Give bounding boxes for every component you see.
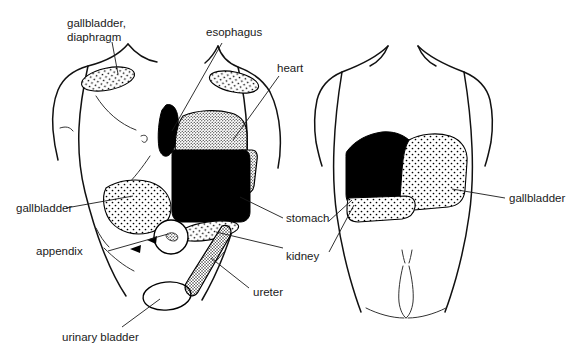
label-kidney: kidney	[286, 250, 319, 262]
label-ureter: ureter	[253, 286, 283, 298]
label-gallbladder-anterior: gallbladder	[16, 202, 72, 214]
label-stomach: stomach	[286, 212, 329, 224]
canvas-background	[0, 0, 570, 360]
label-gallbladder-diaphragm-line1: gallbladder,	[67, 17, 126, 29]
label-appendix: appendix	[36, 245, 83, 257]
stomach-region	[172, 150, 250, 222]
label-gallbladder-posterior: gallbladder	[509, 192, 565, 204]
label-heart: heart	[277, 62, 304, 74]
label-urinary-bladder: urinary bladder	[62, 331, 139, 343]
label-esophagus: esophagus	[206, 26, 263, 38]
label-gallbladder-diaphragm-line2: diaphragm	[67, 31, 121, 43]
stomach-region-posterior	[346, 132, 409, 206]
kidney-region-posterior	[347, 196, 415, 222]
referred-pain-diagram: gallbladder, diaphragm esophagus heart g…	[0, 0, 570, 360]
